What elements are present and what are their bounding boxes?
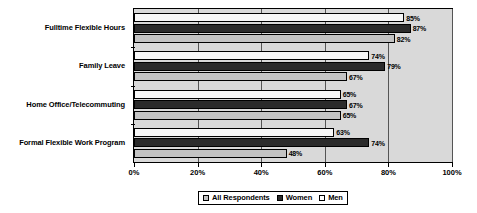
category-label: Fulltime Flexible Hours (45, 23, 125, 32)
category-tick (131, 124, 135, 125)
bar-value-label: 82% (397, 35, 410, 42)
bar-all-respondents (134, 72, 347, 81)
bar-value-label: 87% (413, 25, 426, 32)
legend-label: Men (328, 193, 343, 202)
legend-item-men[interactable]: Men (319, 193, 343, 202)
x-tick-label: 20% (190, 168, 205, 177)
legend-swatch-icon (319, 195, 325, 201)
bar-row: 67% (134, 100, 452, 109)
bar-all-respondents (134, 111, 341, 120)
bar-all-respondents (134, 149, 287, 158)
bar-men (134, 13, 404, 22)
bar-value-label: 65% (343, 91, 356, 98)
x-tick (198, 163, 199, 167)
bar-men (134, 51, 369, 60)
legend-label: All Respondents (212, 193, 270, 202)
bar-row: 82% (134, 34, 452, 43)
bar-women (134, 62, 385, 71)
bar-men (134, 128, 334, 137)
bar-value-label: 67% (349, 73, 362, 80)
plot-area: 85%87%82%74%79%67%65%67%65%63%74%48% (133, 8, 453, 163)
category-label: Home Office/Telecommuting (26, 99, 125, 108)
value-axis: 0%20%40%60%80%100% (133, 163, 453, 179)
bar-value-label: 67% (349, 101, 362, 108)
bar-value-label: 74% (371, 52, 384, 59)
bar-all-respondents (134, 34, 395, 43)
bar-row: 67% (134, 72, 452, 81)
x-tick (134, 163, 135, 167)
bar-value-label: 74% (371, 139, 384, 146)
category-tick (131, 47, 135, 48)
bar-value-label: 85% (406, 14, 419, 21)
bar-value-label: 48% (289, 150, 302, 157)
bar-women (134, 24, 411, 33)
legend-swatch-icon (203, 195, 209, 201)
bar-row: 65% (134, 111, 452, 120)
bar-row: 65% (134, 90, 452, 99)
bar-row: 48% (134, 149, 452, 158)
category-label: Formal Flexible Work Program (19, 137, 125, 146)
legend-label: Women (286, 193, 312, 202)
bar-chart: Fulltime Flexible HoursFamily LeaveHome … (0, 0, 477, 213)
x-tick (261, 163, 262, 167)
legend-swatch-icon (277, 195, 283, 201)
legend-item-all-respondents[interactable]: All Respondents (203, 193, 270, 202)
bar-value-label: 65% (343, 112, 356, 119)
x-tick-label: 40% (254, 168, 269, 177)
bar-row: 74% (134, 138, 452, 147)
gridline-100 (452, 9, 453, 162)
x-tick (452, 163, 453, 167)
x-tick (325, 163, 326, 167)
x-tick-label: 100% (442, 168, 461, 177)
legend-item-women[interactable]: Women (277, 193, 312, 202)
chart-legend: All RespondentsWomenMen (198, 191, 348, 205)
bar-women (134, 100, 347, 109)
category-tick (131, 86, 135, 87)
x-tick-label: 60% (317, 168, 332, 177)
bar-row: 74% (134, 51, 452, 60)
bar-row: 85% (134, 13, 452, 22)
bar-value-label: 79% (387, 63, 400, 70)
bar-row: 87% (134, 24, 452, 33)
x-tick-label: 80% (381, 168, 396, 177)
bar-women (134, 138, 369, 147)
bar-row: 63% (134, 128, 452, 137)
category-axis: Fulltime Flexible HoursFamily LeaveHome … (0, 8, 130, 163)
bar-row: 79% (134, 62, 452, 71)
bar-value-label: 63% (336, 129, 349, 136)
x-tick-label: 0% (129, 168, 140, 177)
category-label: Family Leave (79, 61, 125, 70)
bar-men (134, 90, 341, 99)
x-tick (388, 163, 389, 167)
plot-inner: 85%87%82%74%79%67%65%67%65%63%74%48% (134, 9, 452, 162)
